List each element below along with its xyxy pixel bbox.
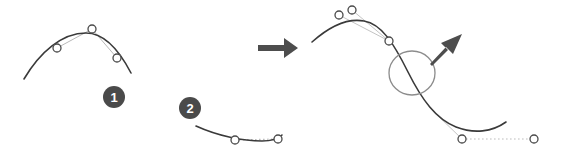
curve-segment-one-group: [24, 25, 131, 79]
badge-one-label: 1: [110, 90, 117, 105]
illustration-canvas: 1 2: [0, 0, 571, 161]
handle-line-right-a: [339, 15, 389, 41]
highlight-circle: [389, 51, 435, 95]
right-arrow-icon: [258, 38, 298, 58]
curve-segment-two-group: [196, 126, 282, 144]
badge-two-label: 2: [186, 101, 193, 116]
node-anchor-left-one[interactable]: [53, 44, 61, 52]
handle-line-left-b: [92, 29, 117, 58]
node-anchor-lower-right[interactable]: [530, 135, 538, 143]
node-anchor-lower-left[interactable]: [458, 135, 466, 143]
node-anchor-mid-upper[interactable]: [385, 37, 393, 45]
merged-curve-group: [312, 6, 538, 143]
node-anchor-left-two[interactable]: [231, 136, 239, 144]
merged-curve-path: [312, 20, 506, 131]
node-anchor-right-two[interactable]: [274, 135, 282, 143]
node-control-upper-right[interactable]: [348, 6, 356, 14]
node-control-top-one[interactable]: [88, 25, 96, 33]
node-anchor-right-one[interactable]: [113, 54, 121, 62]
node-control-upper-left[interactable]: [335, 11, 343, 19]
handle-line-right-b: [352, 10, 389, 41]
badge-two: 2: [179, 97, 201, 119]
badge-one: 1: [103, 86, 125, 108]
down-left-arrow-icon: [430, 34, 462, 66]
bezier-illustration-figure: 1 2: [0, 0, 571, 161]
